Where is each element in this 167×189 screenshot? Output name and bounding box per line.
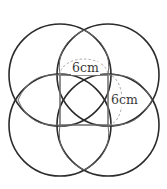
figure-canvas (0, 0, 167, 189)
right-side-length-label: 6cm (110, 94, 139, 107)
geometry-figure: 6cm 6cm (0, 0, 167, 189)
center-square (60, 75, 108, 125)
top-side-length-label: 6cm (71, 62, 100, 75)
vertical-lens (59, 30, 108, 170)
